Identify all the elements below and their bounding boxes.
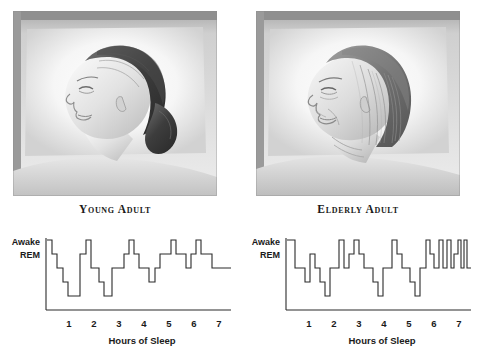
x-axis-title: Hours of Sleep [348,335,415,346]
x-tick-labels: 1 2 3 4 5 6 7 [66,318,221,329]
x-tick-3: 3 [356,318,361,329]
x-tick-1: 1 [66,318,72,329]
x-tick-7: 7 [216,318,221,329]
x-tick-6: 6 [191,318,196,329]
x-axis-title: Hours of Sleep [108,335,175,346]
caption-elderly-adult: Elderly Adult [256,203,460,215]
x-tick-5: 5 [406,318,412,329]
x-tick-3: 3 [116,318,121,329]
x-tick-2: 2 [331,318,336,329]
elderly-adult-hypnogram: Awake REM 1 2 3 4 5 6 7 Hours of Sleep [240,228,479,357]
sleep-stage-trace-elderly [287,240,471,296]
x-tick-6: 6 [431,318,436,329]
x-tick-4: 4 [141,318,147,329]
x-tick-1: 1 [306,318,312,329]
elderly-adult-photo-panel [256,11,460,196]
illustration-row: Young Adult Elderly Adult [0,0,479,200]
young-adult-photo-panel [13,11,217,196]
elderly-adult-illustration [256,11,460,196]
y-label-rem: REM [20,250,40,260]
sleep-stage-trace-young [47,240,231,296]
young-adult-hypnogram: Awake REM 1 2 3 4 5 6 7 Hours of Sleep [0,228,239,357]
x-tick-labels: 1 2 3 4 5 6 7 [306,318,461,329]
x-tick-5: 5 [166,318,172,329]
y-label-awake: Awake [252,237,280,247]
hypnogram-row: Awake REM 1 2 3 4 5 6 7 Hours of Sleep A… [0,228,479,357]
x-tick-7: 7 [456,318,461,329]
y-label-awake: Awake [12,237,40,247]
young-adult-illustration [13,11,217,196]
x-tick-4: 4 [381,318,387,329]
caption-young-adult: Young Adult [13,203,217,215]
x-tick-2: 2 [91,318,96,329]
y-label-rem: REM [260,250,280,260]
